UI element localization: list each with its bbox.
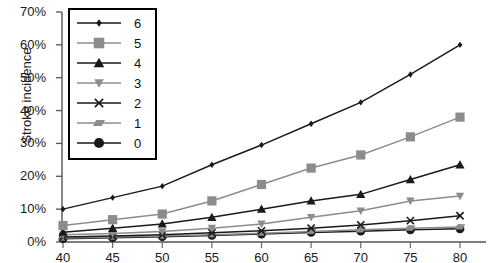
parallelogram-marker bbox=[93, 120, 105, 126]
legend-label: 3 bbox=[124, 77, 151, 90]
legend-symbol-diamond bbox=[74, 14, 124, 32]
legend-swatch bbox=[74, 94, 124, 112]
square-marker bbox=[108, 215, 117, 224]
legend-swatch bbox=[74, 114, 124, 132]
data-point-marker-square bbox=[58, 221, 67, 230]
legend-swatch bbox=[74, 74, 124, 92]
diamond-marker bbox=[259, 142, 264, 148]
diamond-marker bbox=[358, 99, 363, 105]
legend-swatch bbox=[74, 14, 124, 32]
data-point-marker-circle bbox=[94, 138, 104, 148]
square-marker bbox=[406, 132, 415, 141]
legend-swatch bbox=[74, 34, 124, 52]
data-point-marker-diamond bbox=[458, 42, 463, 48]
legend-symbol-cross bbox=[74, 94, 124, 112]
legend-item-0[interactable]: 0 bbox=[70, 133, 155, 153]
data-point-marker-square bbox=[455, 113, 464, 122]
data-point-marker-square bbox=[406, 132, 415, 141]
data-point-marker-square bbox=[307, 163, 316, 172]
data-point-marker-square bbox=[257, 180, 266, 189]
data-point-marker-diamond bbox=[408, 71, 413, 77]
legend-label: 4 bbox=[124, 57, 151, 70]
diamond-marker bbox=[209, 162, 214, 168]
legend-swatch bbox=[74, 54, 124, 72]
square-marker bbox=[307, 163, 316, 172]
square-marker bbox=[94, 38, 105, 49]
legend-symbol-parallelogram bbox=[74, 114, 124, 132]
legend-label: 0 bbox=[124, 137, 151, 150]
data-point-marker-diamond bbox=[358, 99, 363, 105]
data-point-marker-diamond bbox=[259, 142, 264, 148]
legend-label: 1 bbox=[124, 117, 151, 130]
square-marker bbox=[257, 180, 266, 189]
chart-legend: 6543210 bbox=[68, 8, 157, 160]
diamond-marker bbox=[160, 183, 165, 189]
data-point-marker-diamond bbox=[110, 194, 115, 200]
data-point-marker-triangle-up bbox=[455, 160, 464, 168]
data-point-marker-square bbox=[158, 209, 167, 218]
diamond-marker bbox=[309, 121, 314, 127]
data-point-marker-square bbox=[207, 196, 216, 205]
legend-symbol-triangle-down bbox=[74, 74, 124, 92]
legend-item-5[interactable]: 5 bbox=[70, 33, 155, 53]
legend-item-6[interactable]: 6 bbox=[70, 13, 155, 33]
data-point-marker-diamond bbox=[160, 183, 165, 189]
diamond-marker bbox=[96, 19, 102, 26]
legend-symbol-circle bbox=[74, 134, 124, 152]
square-marker bbox=[58, 221, 67, 230]
diamond-marker bbox=[458, 42, 463, 48]
legend-item-3[interactable]: 3 bbox=[70, 73, 155, 93]
legend-symbol-square bbox=[74, 34, 124, 52]
data-point-marker-square bbox=[94, 38, 105, 49]
legend-item-4[interactable]: 4 bbox=[70, 53, 155, 73]
data-point-marker-parallelogram bbox=[93, 120, 105, 126]
data-point-marker-diamond bbox=[209, 162, 214, 168]
legend-item-2[interactable]: 2 bbox=[70, 93, 155, 113]
chart-container: Stroke incidence 0%10%20%30%40%50%60%70%… bbox=[0, 0, 488, 263]
circle-marker bbox=[94, 138, 104, 148]
square-marker bbox=[158, 209, 167, 218]
square-marker bbox=[356, 150, 365, 159]
legend-swatch bbox=[74, 134, 124, 152]
square-marker bbox=[455, 113, 464, 122]
legend-label: 6 bbox=[124, 17, 151, 30]
legend-label: 2 bbox=[124, 97, 151, 110]
legend-item-1[interactable]: 1 bbox=[70, 113, 155, 133]
data-point-marker-square bbox=[356, 150, 365, 159]
legend-label: 5 bbox=[124, 37, 151, 50]
legend-symbol-triangle-up bbox=[74, 54, 124, 72]
triangle-up-marker bbox=[455, 160, 464, 168]
diamond-marker bbox=[110, 194, 115, 200]
diamond-marker bbox=[408, 71, 413, 77]
data-point-marker-square bbox=[108, 215, 117, 224]
data-point-marker-diamond bbox=[96, 19, 102, 26]
square-marker bbox=[207, 196, 216, 205]
data-point-marker-diamond bbox=[309, 121, 314, 127]
